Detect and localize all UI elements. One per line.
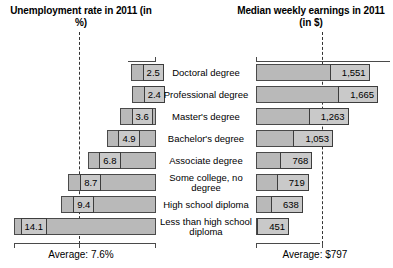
chart-row: 4.9Bachelor's degree1,053 — [0, 128, 393, 150]
earnings-value: 451 — [257, 218, 289, 235]
right-average-label: Average: $797 — [240, 249, 390, 260]
unemployment-value: 6.8 — [99, 152, 120, 169]
earnings-value: 1,263 — [309, 108, 349, 125]
right-axis-bottom-tick-avg — [322, 243, 323, 248]
left-axis-bottom-tick-end — [155, 243, 156, 248]
diverging-bar-chart: Unemployment rate in 2011 (in %) Median … — [0, 0, 393, 268]
unemployment-value: 8.7 — [80, 174, 101, 191]
chart-row: 9.4High school diploma638 — [0, 194, 393, 216]
chart-row: 8.7Some college, no degree719 — [0, 172, 393, 194]
left-axis-title: Unemployment rate in 2011 (in %) — [6, 5, 156, 29]
unemployment-value: 3.6 — [132, 108, 153, 125]
right-axis-bottom-rule — [256, 243, 320, 244]
earnings-value: 1,551 — [330, 64, 370, 81]
chart-row: 2.5Doctoral degree1,551 — [0, 62, 393, 84]
chart-row: 3.6Master's degree1,263 — [0, 106, 393, 128]
category-label: Master's degree — [160, 106, 252, 128]
category-label: Some college, no degree — [160, 172, 252, 194]
category-label: Less than high school diploma — [160, 216, 252, 238]
earnings-value: 719 — [277, 174, 309, 191]
unemployment-value: 14.1 — [21, 218, 48, 235]
earnings-value: 768 — [280, 152, 312, 169]
category-label: Bachelor's degree — [160, 128, 252, 150]
category-label: High school diploma — [160, 194, 252, 216]
left-axis-bottom-tick-start — [14, 243, 15, 248]
chart-row: 6.8Associate degree768 — [0, 150, 393, 172]
right-axis-bottom-tick-start — [256, 243, 257, 248]
earnings-value: 1,665 — [338, 86, 378, 103]
right-axis-title: Median weekly earnings in 2011 (in $) — [232, 5, 390, 29]
earnings-value: 638 — [271, 196, 303, 213]
left-axis-bottom-rule — [14, 243, 156, 244]
category-label: Associate degree — [160, 150, 252, 172]
left-average-label: Average: 7.6% — [6, 249, 156, 260]
earnings-value: 1,053 — [293, 130, 333, 147]
category-label: Doctoral degree — [160, 62, 252, 84]
unemployment-bar — [88, 152, 156, 169]
left-axis-bottom-tick-avg — [79, 243, 80, 248]
chart-row: 2.4Professional degree1,665 — [0, 84, 393, 106]
category-label: Professional degree — [160, 84, 252, 106]
chart-row: 14.1Less than high school diploma451 — [0, 216, 393, 238]
unemployment-value: 9.4 — [73, 196, 94, 213]
unemployment-value: 4.9 — [118, 130, 139, 147]
